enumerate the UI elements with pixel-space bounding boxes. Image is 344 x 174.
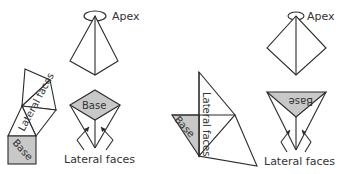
right-pyramid-net: Base Lateral faces [172,72,257,166]
right-pyramid-assembled: Base Lateral faces [264,92,335,168]
left-pyramid-top-view: Apex [70,10,140,75]
left-pyramid-assembled: Base Lateral faces [64,90,135,166]
net-lateral-label: Lateral faces [201,92,212,156]
assembled-base-label: Base [82,100,106,111]
assembled-base-label: Base [289,96,313,107]
right-pyramid-top-view: Apex [267,10,335,75]
assembled-lateral-label: Lateral faces [264,155,335,168]
apex-label: Apex [112,10,140,23]
left-pyramid-net: Base Lateral faces [8,69,56,164]
apex-label: Apex [307,10,335,23]
assembled-lateral-label: Lateral faces [64,153,135,166]
pyramid-nets-diagram: Apex Base Lateral faces Base Lateral fac… [0,0,344,174]
